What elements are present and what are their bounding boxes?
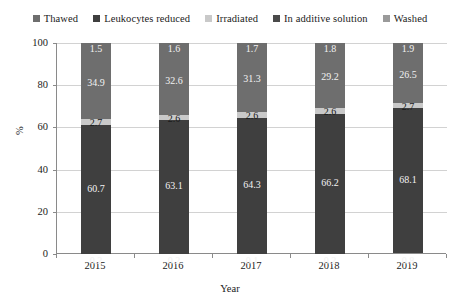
stacked-bar[interactable]: 0.260.72.734.91.5 — [81, 43, 111, 253]
legend-item-label: In additive solution — [284, 13, 368, 24]
bar-segment-value-label: 2.7 — [90, 118, 103, 128]
bar-segment-value-label: 0.1 — [246, 256, 259, 266]
bar-segment-value-label: 1.6 — [168, 44, 181, 54]
bar-segment-value-label: 31.3 — [243, 74, 261, 84]
x-axis-tick — [446, 254, 447, 258]
bar-segment-value-label: 63.1 — [165, 181, 183, 191]
bar-segment[interactable]: 32.6 — [159, 46, 189, 114]
bar-segment-value-label: 2.6 — [168, 114, 181, 124]
bar-segment-value-label: 1.7 — [246, 44, 259, 54]
stacked-bar[interactable]: 0.868.12.726.51.9 — [393, 43, 423, 253]
bar-segment[interactable]: 1.8 — [315, 43, 345, 47]
bar-segment-value-label: 1.8 — [324, 44, 337, 54]
stacked-bar[interactable]: 0.263.12.632.61.6 — [159, 43, 189, 253]
bar-segment[interactable]: 1.5 — [81, 43, 111, 46]
bar-series-container: 0.260.72.734.91.50.263.12.632.61.60.164.… — [57, 43, 446, 253]
bar-segment[interactable]: 34.9 — [81, 46, 111, 119]
bar-segment-value-label: 26.5 — [399, 70, 417, 80]
legend-swatch-icon — [33, 15, 40, 22]
bar-group[interactable]: 0.868.12.726.51.9 — [393, 43, 423, 253]
bar-segment[interactable]: 63.1 — [159, 120, 189, 252]
stacked-bar[interactable]: 0.266.22.629.21.8 — [315, 43, 345, 253]
x-axis-tick — [56, 254, 57, 258]
plot-area: 0.260.72.734.91.50.263.12.632.61.60.164.… — [56, 43, 446, 254]
x-axis-title: Year — [0, 283, 460, 294]
bar-segment-value-label: 32.6 — [165, 76, 183, 86]
bar-segment[interactable]: 26.5 — [393, 47, 423, 103]
bar-segment[interactable]: 1.7 — [237, 43, 267, 47]
legend-item-label: Washed — [394, 13, 428, 24]
y-axis-tick-label: 100 — [14, 38, 48, 48]
bar-segment-value-label: 0.2 — [168, 256, 181, 266]
bar-segment-value-label: 2.6 — [324, 107, 337, 117]
bar-segment[interactable]: 64.3 — [237, 118, 267, 253]
x-axis-tick — [212, 254, 213, 258]
bar-segment-value-label: 0.2 — [324, 256, 337, 266]
y-axis-tick-label: 80 — [14, 80, 48, 90]
legend-swatch-icon — [383, 15, 390, 22]
bar-segment-value-label: 66.2 — [321, 178, 339, 188]
stacked-bar-chart: ThawedLeukocytes reducedIrradiatedIn add… — [0, 0, 460, 303]
legend-item[interactable]: Leukocytes reduced — [93, 13, 190, 24]
bar-group[interactable]: 0.164.32.631.31.7 — [237, 43, 267, 253]
bar-segment[interactable]: 60.7 — [81, 125, 111, 252]
bar-segment[interactable]: 29.2 — [315, 47, 345, 108]
bar-segment[interactable]: 1.9 — [393, 43, 423, 47]
x-axis-tick — [134, 254, 135, 258]
bar-segment-value-label: 2.6 — [246, 111, 259, 121]
legend-item-label: Irradiated — [216, 13, 258, 24]
bar-segment-value-label: 64.3 — [243, 180, 261, 190]
y-axis-tick-label: 20 — [14, 207, 48, 217]
legend-item-label: Thawed — [44, 13, 78, 24]
bar-segment-value-label: 34.9 — [87, 78, 105, 88]
bar-segment[interactable]: 68.1 — [393, 108, 423, 251]
bar-segment-value-label: 2.7 — [402, 102, 415, 112]
bar-segment-value-label: 29.2 — [321, 72, 339, 82]
legend-item-label: Leukocytes reduced — [104, 13, 190, 24]
bar-segment[interactable]: 2.6 — [159, 115, 189, 120]
y-axis-tick-label: 60 — [14, 122, 48, 132]
bar-segment[interactable]: 66.2 — [315, 114, 345, 253]
bar-group[interactable]: 0.266.22.629.21.8 — [315, 43, 345, 253]
bar-segment[interactable]: 0.8 — [393, 251, 423, 253]
bar-segment-value-label: 0.2 — [90, 256, 103, 266]
bar-segment[interactable]: 2.6 — [315, 108, 345, 113]
bar-segment-value-label: 0.8 — [402, 256, 415, 266]
bar-segment[interactable]: 1.6 — [159, 43, 189, 46]
legend-swatch-icon — [93, 15, 100, 22]
legend-item[interactable]: Thawed — [33, 13, 78, 24]
x-axis-tick — [290, 254, 291, 258]
bar-segment-value-label: 68.1 — [399, 175, 417, 185]
bar-segment-value-label: 1.5 — [90, 44, 103, 54]
legend-swatch-icon — [273, 15, 280, 22]
bar-segment[interactable]: 31.3 — [237, 47, 267, 113]
bar-group[interactable]: 0.260.72.734.91.5 — [81, 43, 111, 253]
y-axis-tick-label: 0 — [14, 249, 48, 259]
y-axis-tick-label: 40 — [14, 165, 48, 175]
legend-item[interactable]: Irradiated — [205, 13, 258, 24]
stacked-bar[interactable]: 0.164.32.631.31.7 — [237, 43, 267, 253]
x-axis-tick — [368, 254, 369, 258]
bar-segment-value-label: 60.7 — [87, 184, 105, 194]
bar-segment[interactable]: 2.7 — [81, 119, 111, 125]
legend-item[interactable]: In additive solution — [273, 13, 368, 24]
bar-segment[interactable]: 2.6 — [237, 112, 267, 117]
bar-segment[interactable]: 2.7 — [393, 103, 423, 109]
chart-legend: ThawedLeukocytes reducedIrradiatedIn add… — [0, 13, 460, 24]
bar-segment-value-label: 1.9 — [402, 44, 415, 54]
legend-swatch-icon — [205, 15, 212, 22]
legend-item[interactable]: Washed — [383, 13, 428, 24]
bar-group[interactable]: 0.263.12.632.61.6 — [159, 43, 189, 253]
